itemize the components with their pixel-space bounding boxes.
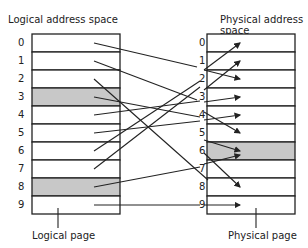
right-row-label: 1 [199, 55, 205, 66]
right-row-label: 7 [199, 163, 205, 174]
left-row-label: 2 [18, 73, 24, 84]
left-row-label: 9 [18, 199, 24, 210]
right-row-label: 9 [199, 199, 205, 210]
left-row-label: 0 [18, 37, 24, 48]
left-row-label: 3 [18, 91, 24, 102]
right-row-label: 4 [199, 109, 205, 120]
paging-diagram: Logical address space Physical address s… [0, 0, 308, 248]
physical-page-caption: Physical page [228, 230, 297, 241]
left-row-label: 4 [18, 109, 24, 120]
right-row-label: 5 [199, 127, 205, 138]
left-row-label: 5 [18, 127, 24, 138]
right-row-label: 8 [199, 181, 205, 192]
right-row-label: 0 [199, 37, 205, 48]
left-row-label: 8 [18, 181, 24, 192]
right-row-label: 2 [199, 73, 205, 84]
left-row-label: 6 [18, 145, 24, 156]
diagram-svg [0, 0, 308, 248]
left-row-label: 7 [18, 163, 24, 174]
left-row-label: 1 [18, 55, 24, 66]
right-row-label: 6 [199, 145, 205, 156]
right-row-label: 3 [199, 91, 205, 102]
logical-page-caption: Logical page [32, 230, 95, 241]
